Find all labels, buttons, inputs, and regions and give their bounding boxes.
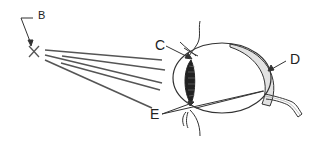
object-point-x (29, 46, 39, 57)
light-rays (45, 50, 165, 108)
label-c: C (155, 38, 165, 52)
c-pointer-arrow (166, 46, 192, 59)
eye-diagram: B C D E (0, 0, 317, 149)
d-pointer-arrow (268, 61, 286, 71)
e-pointer-arrows (162, 91, 263, 114)
label-e: E (150, 107, 159, 121)
b-pointer-arrow (21, 18, 33, 46)
label-b: B (38, 10, 45, 21)
label-d: D (290, 52, 300, 66)
